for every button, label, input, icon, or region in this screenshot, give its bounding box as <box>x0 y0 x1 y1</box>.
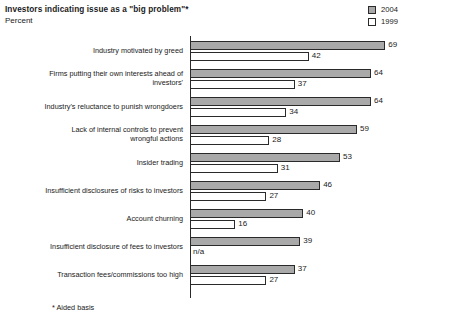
bar-fill-2004 <box>190 41 385 50</box>
bar-fill-1999 <box>190 164 278 173</box>
category-label: Transaction fees/commissions too high <box>0 271 183 280</box>
category-label-line: Account churning <box>0 215 183 224</box>
chart-bar: 39 <box>190 237 300 246</box>
chart-bar: 64 <box>190 97 371 106</box>
bar-value-label: 27 <box>269 191 278 201</box>
bar-value-label: 34 <box>289 107 298 117</box>
chart-bar: 53 <box>190 153 340 162</box>
bar-value-label: 16 <box>238 219 247 229</box>
chart-category-group: Insider trading5331 <box>0 152 456 180</box>
bar-value-label: 53 <box>343 152 352 162</box>
bar-value-label: 46 <box>323 180 332 190</box>
page-title: Investors indicating issue as a "big pro… <box>5 5 188 14</box>
bar-fill-2004 <box>190 265 295 274</box>
category-label: Lack of internal controls to preventwron… <box>0 126 183 143</box>
bar-fill-1999 <box>190 192 266 201</box>
bar-fill-1999 <box>190 80 295 89</box>
chart-bar: 27 <box>190 276 266 285</box>
bar-value-label: 27 <box>269 275 278 285</box>
bar-value-label: 64 <box>374 96 383 106</box>
category-label-line: Insufficient disclosure of fees to inves… <box>0 243 183 252</box>
bar-value-label: 40 <box>306 208 315 218</box>
category-label-line: Insider trading <box>0 159 183 168</box>
chart-category-group: Insufficient disclosures of risks to inv… <box>0 180 456 208</box>
legend-swatch-1999-icon <box>368 18 376 26</box>
chart-category-group: Industry's reluctance to punish wrongdoe… <box>0 96 456 124</box>
bar-fill-2004 <box>190 237 300 246</box>
chart-legend: 2004 1999 <box>368 4 426 28</box>
category-label-line: Industry's reluctance to punish wrongdoe… <box>0 103 183 112</box>
chart-footnote: * Aided basis <box>52 303 94 312</box>
chart-bar: 16 <box>190 220 235 229</box>
legend-label-2004: 2004 <box>381 5 398 14</box>
bar-fill-1999 <box>190 108 286 117</box>
legend-item-1999: 1999 <box>368 16 426 27</box>
category-label: Firms putting their own interests ahead … <box>0 70 183 87</box>
category-label: Insufficient disclosures of risks to inv… <box>0 187 183 196</box>
chart-category-group: Firms putting their own interests ahead … <box>0 68 456 96</box>
category-label-line: investors' <box>0 79 183 88</box>
chart-bar: 28 <box>190 136 269 145</box>
bar-value-label: 39 <box>303 236 312 246</box>
chart-bar: 37 <box>190 80 295 89</box>
category-label: Account churning <box>0 215 183 224</box>
bar-value-label: 64 <box>374 68 383 78</box>
category-label-line: Industry motivated by greed <box>0 47 183 56</box>
bar-fill-1999 <box>190 136 269 145</box>
bar-fill-2004 <box>190 69 371 78</box>
bar-value-label: 37 <box>298 79 307 89</box>
bar-fill-2004 <box>190 125 357 134</box>
bar-fill-1999 <box>190 52 309 61</box>
bar-value-label: 37 <box>298 264 307 274</box>
category-label: Industry's reluctance to punish wrongdoe… <box>0 103 183 112</box>
legend-label-1999: 1999 <box>381 17 398 26</box>
category-label-line: wrongful actions <box>0 135 183 144</box>
chart-bar: 46 <box>190 181 320 190</box>
chart-category-group: Lack of internal controls to preventwron… <box>0 124 456 152</box>
legend-item-2004: 2004 <box>368 4 426 15</box>
chart-category-group: Account churning4016 <box>0 208 456 236</box>
chart-plot-area: Industry motivated by greed6942Firms put… <box>0 36 456 298</box>
chart-category-group: Transaction fees/commissions too high372… <box>0 264 456 292</box>
chart-bar: 31 <box>190 164 278 173</box>
category-label: Industry motivated by greed <box>0 47 183 56</box>
chart-bar: 34 <box>190 108 286 117</box>
bar-value-label: 31 <box>281 163 290 173</box>
chart-bar: 27 <box>190 192 266 201</box>
bar-fill-2004 <box>190 209 303 218</box>
chart-bar: 64 <box>190 69 371 78</box>
bar-value-label: 28 <box>272 135 281 145</box>
chart-subtitle: Percent <box>5 16 33 25</box>
bar-fill-2004 <box>190 181 320 190</box>
chart-bar: 42 <box>190 52 309 61</box>
bar-fill-2004 <box>190 97 371 106</box>
chart-bar: 59 <box>190 125 357 134</box>
bar-fill-1999 <box>190 276 266 285</box>
chart-bar: 69 <box>190 41 385 50</box>
legend-swatch-2004-icon <box>368 6 376 14</box>
category-label: Insider trading <box>0 159 183 168</box>
chart-bar: 37 <box>190 265 295 274</box>
bar-value-label: 59 <box>360 124 369 134</box>
chart-category-group: Industry motivated by greed6942 <box>0 40 456 68</box>
bar-fill-2004 <box>190 153 340 162</box>
category-label: Insufficient disclosure of fees to inves… <box>0 243 183 252</box>
category-label-line: Insufficient disclosures of risks to inv… <box>0 187 183 196</box>
bar-value-label: 42 <box>312 51 321 61</box>
bar-fill-1999 <box>190 220 235 229</box>
bar-value-na: n/a <box>193 247 204 257</box>
chart-category-group: Insufficient disclosure of fees to inves… <box>0 236 456 264</box>
category-label-line: Transaction fees/commissions too high <box>0 271 183 280</box>
bar-value-label: 69 <box>388 40 397 50</box>
chart-bar: 40 <box>190 209 303 218</box>
